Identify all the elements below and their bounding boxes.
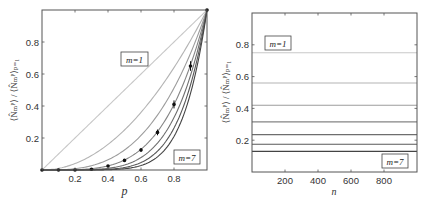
- left-annotation-m1-label: m=1: [126, 55, 143, 65]
- y-tick-label: 0.4: [26, 101, 39, 112]
- x-tick-label: 0.2: [68, 173, 81, 184]
- right-annotation-m7: m=7: [382, 154, 408, 168]
- figure: 0.20.40.60.80.20.40.60.8 m=1 m=7 p ⟨N̂ₘᴾ…: [0, 0, 422, 204]
- y-tick-label: 0.8: [26, 37, 39, 48]
- left-y-axis-label: ⟨N̂ₘᴾ⟩ / ⟨N̂ₘᴾ⟩ₚ₌₁: [8, 59, 19, 122]
- right-panel: 2004006008000.20.40.60.8 m=1 m=7 n ⟨N̂ₘᴾ…: [220, 13, 417, 197]
- data-point: [139, 148, 143, 152]
- right-annotation-m1-label: m=1: [269, 39, 286, 49]
- y-tick-label: 0.6: [26, 69, 39, 80]
- y-tick-label: 0.6: [236, 71, 249, 82]
- left-curves: [42, 10, 207, 170]
- x-tick-label: 0.4: [101, 173, 114, 184]
- left-annotation-m7-label: m=7: [178, 153, 196, 163]
- right-annotation-m7-label: m=7: [386, 157, 404, 167]
- data-point: [106, 164, 110, 168]
- left-annotation-m7: m=7: [174, 150, 200, 164]
- right-x-axis-label: n: [332, 186, 337, 197]
- y-tick-label: 0.2: [236, 135, 249, 146]
- x-tick-label: 600: [343, 175, 359, 186]
- y-tick-label: 0.2: [26, 133, 39, 144]
- left-x-axis-label: p: [121, 184, 128, 198]
- data-point: [156, 131, 160, 135]
- y-tick-label: 0.8: [236, 39, 249, 50]
- curve-m1: [42, 10, 207, 170]
- data-point: [123, 159, 127, 163]
- y-tick-label: 0.4: [236, 103, 249, 114]
- x-tick-label: 800: [376, 175, 392, 186]
- left-annotation-m1: m=1: [121, 52, 148, 66]
- data-point: [172, 103, 176, 107]
- data-point: [189, 64, 193, 68]
- right-annotation-m1: m=1: [265, 36, 291, 50]
- x-tick-label: 0.8: [167, 173, 180, 184]
- x-tick-label: 200: [277, 175, 293, 186]
- x-tick-label: 400: [310, 175, 326, 186]
- left-panel: 0.20.40.60.80.20.40.60.8 m=1 m=7 p ⟨N̂ₘᴾ…: [8, 8, 209, 198]
- right-y-axis-label: ⟨N̂ₘᴾ⟩ / ⟨N̂ₘᴾ⟩ₚ₌₁: [220, 61, 231, 124]
- right-lines: [252, 53, 417, 152]
- x-tick-label: 0.6: [134, 173, 147, 184]
